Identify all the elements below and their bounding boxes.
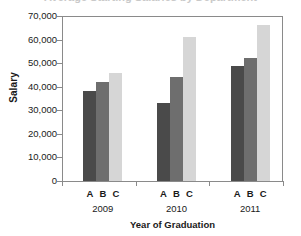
- series-letter-2009-A: A: [83, 188, 97, 199]
- y-tick-label: 60,000: [13, 35, 57, 45]
- y-tick-label: 20,000: [13, 129, 57, 139]
- y-axis-tick-labels: 70,00060,00050,00040,00030,00020,00010,0…: [8, 0, 57, 236]
- bar-chart: Average Starting Salaries by Department …: [0, 0, 301, 236]
- bar-2011-C: [257, 25, 270, 181]
- group-label-2010: 2010: [147, 203, 207, 214]
- x-axis-title: Year of Graduation: [62, 219, 283, 230]
- x-tick-mark: [136, 182, 137, 186]
- bar-2010-A: [157, 103, 170, 181]
- y-tick-label: 30,000: [13, 105, 57, 115]
- bar-2011-B: [244, 58, 257, 181]
- series-letter-2011-A: A: [230, 188, 244, 199]
- series-letter-2009-C: C: [109, 188, 123, 199]
- series-letter-2010-C: C: [183, 188, 197, 199]
- y-tick-label: 70,000: [13, 11, 57, 21]
- bar-2009-C: [109, 73, 122, 181]
- x-tick-mark: [62, 182, 63, 186]
- bar-2010-C: [183, 37, 196, 181]
- series-letter-2011-B: B: [243, 188, 257, 199]
- bar-2009-A: [83, 91, 96, 181]
- group-label-2011: 2011: [220, 203, 280, 214]
- series-letter-2009-B: B: [96, 188, 110, 199]
- y-tick-label: 40,000: [13, 82, 57, 92]
- series-letter-2010-A: A: [157, 188, 171, 199]
- bar-2011-A: [231, 66, 244, 182]
- group-label-2009: 2009: [73, 203, 133, 214]
- y-tick-label: 50,000: [13, 58, 57, 68]
- bars-container: [62, 16, 283, 181]
- bar-2010-B: [170, 77, 183, 181]
- y-tick-label: 10,000: [13, 152, 57, 162]
- x-tick-mark: [283, 182, 284, 186]
- series-letter-2011-C: C: [256, 188, 270, 199]
- x-tick-mark: [209, 182, 210, 186]
- bar-2009-B: [96, 82, 109, 181]
- y-tick-label: 0: [13, 176, 57, 186]
- series-letter-2010-B: B: [170, 188, 184, 199]
- x-axis-baseline: [62, 181, 284, 182]
